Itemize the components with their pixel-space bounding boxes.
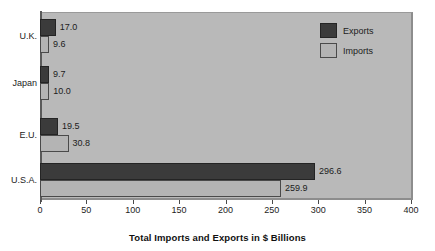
x-tick-label-400: 400 [391,205,431,215]
x-tick-mark-300 [318,200,319,204]
legend-label-exports: Exports [343,26,374,36]
legend-item-imports: Imports [320,42,406,59]
x-tick-label-100: 100 [113,205,153,215]
category-label-uk: U.K. [0,31,37,41]
x-axis-title: Total Imports and Exports in $ Billions [0,232,435,243]
bar-label-imports-eu: 30.8 [73,138,91,148]
bar-label-imports-japan: 10.0 [53,86,71,96]
x-tick-mark-150 [179,200,180,204]
x-tick-mark-50 [86,200,87,204]
legend-swatch-imports [320,43,337,58]
bar-exports-uk [40,19,56,36]
x-tick-label-0: 0 [20,205,60,215]
x-tick-mark-250 [272,200,273,204]
category-label-eu: E.U. [0,130,37,140]
legend-label-imports: Imports [343,46,373,56]
bar-exports-japan [40,66,49,83]
bar-label-exports-eu: 19.5 [62,121,80,131]
legend-swatch-exports [320,23,337,38]
bar-label-exports-uk: 17.0 [60,22,78,32]
bar-label-exports-usa: 296.6 [319,166,342,176]
bar-label-exports-japan: 9.7 [53,69,66,79]
x-tick-label-200: 200 [206,205,246,215]
x-tick-label-300: 300 [298,205,338,215]
bar-imports-usa [40,180,281,197]
x-tick-label-50: 50 [66,205,106,215]
chart-legend: ExportsImports [320,22,406,62]
bar-imports-japan [40,83,49,100]
x-tick-label-250: 250 [252,205,292,215]
x-tick-mark-350 [365,200,366,204]
bar-label-imports-uk: 9.6 [53,39,66,49]
x-tick-label-150: 150 [159,205,199,215]
x-tick-mark-0 [40,200,41,204]
bar-exports-usa [40,163,315,180]
bar-imports-uk [40,36,49,53]
bar-exports-eu [40,118,58,135]
category-label-usa: U.S.A. [0,175,37,185]
category-label-japan: Japan [0,78,37,88]
bar-label-imports-usa: 259.9 [285,183,308,193]
x-tick-mark-200 [226,200,227,204]
bar-chart: 17.09.69.710.019.530.8296.6259.9 U.K.Jap… [0,0,435,251]
bar-imports-eu [40,135,69,152]
x-tick-mark-400 [411,200,412,204]
x-tick-label-350: 350 [345,205,385,215]
legend-item-exports: Exports [320,22,406,39]
x-tick-mark-100 [133,200,134,204]
